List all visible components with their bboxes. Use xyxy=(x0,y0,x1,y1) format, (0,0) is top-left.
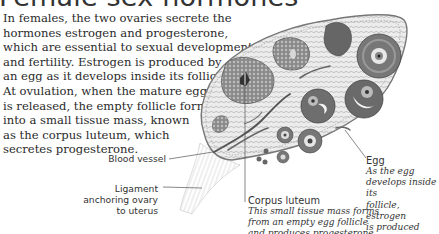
label-blood-vessel: Blood vessel xyxy=(108,153,166,164)
label-egg: Egg As the egg develops inside its folli… xyxy=(366,155,439,233)
label-ligament: Ligament anchoring ovary to uterus xyxy=(74,183,158,216)
label-corpus-luteum: Corpus luteum This small tissue mass for… xyxy=(248,195,379,234)
egg-leader xyxy=(345,130,366,158)
